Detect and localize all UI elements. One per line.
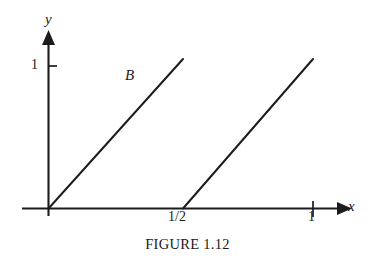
y-axis-label: y [45, 12, 52, 27]
curve-label-b: B [125, 68, 134, 83]
y-tick-label-one: 1 [31, 58, 38, 72]
line-segment-b-first [49, 59, 184, 209]
figure-container: y x 1 B 1/2 1 FIGURE 1.12 [0, 0, 375, 263]
x-tick-label-half: 1/2 [168, 210, 186, 224]
y-axis-arrow-icon [42, 30, 55, 45]
figure-caption: FIGURE 1.12 [0, 236, 375, 253]
x-axis-label: x [348, 199, 355, 214]
line-segment-b-second [183, 59, 313, 209]
figure-canvas [0, 0, 375, 263]
x-tick-label-one: 1 [308, 210, 315, 224]
